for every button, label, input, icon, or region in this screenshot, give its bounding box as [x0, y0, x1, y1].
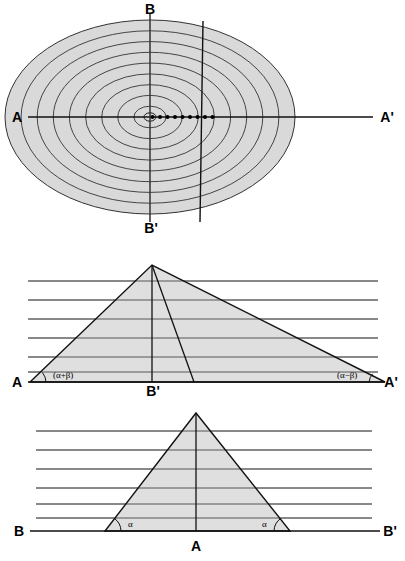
marker-dot	[181, 115, 185, 119]
marker-dot	[188, 115, 192, 119]
marker-dot	[196, 115, 200, 119]
bottom-label-B-prime: B'	[383, 523, 396, 539]
bottom-right-angle-label: α	[262, 519, 267, 529]
middle-label-A-prime: A'	[384, 374, 397, 390]
isosceles-triangle-panel: B B' A α α	[14, 413, 397, 554]
obtuse-triangle-panel: A A' B' (α+β) (α−β)	[12, 265, 398, 399]
marker-dot	[211, 115, 215, 119]
middle-label-A: A	[12, 374, 22, 390]
marker-dot	[203, 115, 207, 119]
bottom-label-B: B	[14, 523, 24, 539]
ellipse-label-B: B	[145, 1, 155, 17]
concentric-ellipse-panel: A A' B B'	[5, 1, 394, 236]
marker-dot-group	[151, 115, 215, 119]
middle-right-angle-label: (α−β)	[337, 370, 357, 380]
ellipse-label-A-prime: A'	[380, 109, 393, 125]
diagram-canvas: A A' B B'	[0, 0, 405, 561]
ellipse-label-B-prime: B'	[144, 220, 157, 236]
middle-triangle-fill	[30, 265, 385, 382]
ellipse-label-A: A	[12, 109, 22, 125]
bottom-left-angle-label: α	[128, 519, 133, 529]
marker-dot	[173, 115, 177, 119]
middle-label-B-prime: B'	[146, 383, 159, 399]
marker-dot	[151, 115, 155, 119]
bottom-label-A: A	[191, 538, 201, 554]
marker-dot	[158, 115, 162, 119]
geometry-figure: A A' B B'	[0, 0, 405, 561]
marker-dot	[166, 115, 170, 119]
middle-left-angle-label: (α+β)	[53, 370, 73, 380]
